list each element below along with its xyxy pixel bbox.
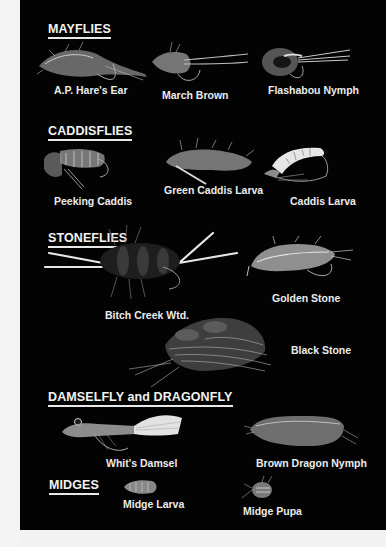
fly-label-peeking-caddis: Peeking Caddis bbox=[54, 195, 132, 207]
fly-image-whits-damsel bbox=[58, 410, 188, 460]
fly-image-midge-larva bbox=[120, 477, 162, 497]
fly-image-bitch-creek bbox=[45, 225, 240, 305]
section-heading-mayflies: MAYFLIES bbox=[48, 23, 111, 39]
fly-label-caddis-larva: Caddis Larva bbox=[290, 195, 356, 207]
fly-label-march-brown: March Brown bbox=[162, 89, 229, 101]
section-heading-midges: MIDGES bbox=[49, 479, 99, 495]
fly-label-golden-stone: Golden Stone bbox=[272, 292, 340, 304]
page-margin bbox=[20, 530, 386, 547]
fly-image-brown-dragon-nymph bbox=[244, 412, 364, 452]
fly-image-golden-stone bbox=[245, 236, 355, 286]
fly-image-flashabou-nymph bbox=[258, 42, 353, 82]
fly-image-green-caddis-larva bbox=[162, 140, 257, 190]
fly-label-ap-hares-ear: A.P. Hare's Ear bbox=[54, 84, 128, 96]
fly-label-midge-pupa: Midge Pupa bbox=[243, 505, 302, 517]
fly-image-ap-hares-ear bbox=[35, 44, 150, 84]
fly-label-flashabou-nymph: Flashabou Nymph bbox=[268, 84, 359, 96]
fly-image-march-brown bbox=[148, 42, 253, 82]
fly-label-brown-dragon-nymph: Brown Dragon Nymph bbox=[256, 457, 367, 469]
fly-image-black-stone bbox=[125, 315, 290, 390]
fly-label-green-caddis-larva: Green Caddis Larva bbox=[164, 184, 263, 196]
section-heading-damselfly-dragonfly: DAMSELFLY and DRAGONFLY bbox=[48, 391, 233, 407]
fly-label-whits-damsel: Whit's Damsel bbox=[106, 457, 177, 469]
fly-image-peeking-caddis bbox=[42, 145, 127, 195]
fly-image-caddis-larva bbox=[264, 144, 344, 194]
fly-image-midge-pupa bbox=[240, 476, 280, 504]
section-heading-caddisflies: CADDISFLIES bbox=[48, 125, 132, 141]
fly-label-midge-larva: Midge Larva bbox=[123, 498, 184, 510]
fly-label-black-stone: Black Stone bbox=[291, 344, 351, 356]
